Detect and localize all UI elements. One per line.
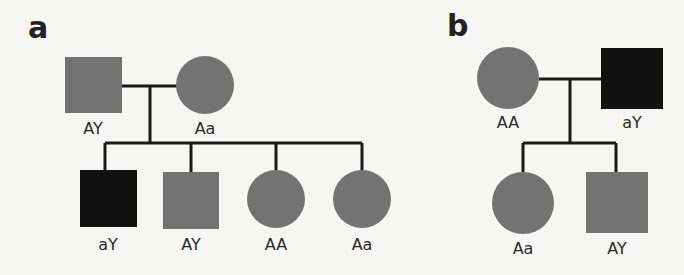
genotype-label: Aa — [195, 119, 216, 138]
genotype-label: AY — [181, 235, 201, 254]
panel-b: b AA aY Aa AY — [447, 8, 663, 258]
genotype-label: AY — [607, 239, 627, 258]
genotype-label: AY — [83, 119, 103, 138]
male-unaffected-symbol — [65, 57, 122, 113]
genotype-label: AA — [265, 235, 287, 254]
genotype-label: Aa — [352, 235, 373, 254]
male-affected-symbol — [80, 170, 137, 227]
female-unaffected-symbol — [477, 47, 539, 109]
male-affected-symbol — [601, 48, 663, 109]
male-unaffected-symbol — [163, 172, 219, 229]
pedigree-figure: a AY Aa aY AY AA Aa b AA aY — [0, 0, 684, 275]
female-unaffected-symbol — [176, 56, 234, 114]
panel-b-label: b — [447, 8, 468, 43]
female-unaffected-symbol — [492, 172, 554, 234]
panel-a-label: a — [28, 10, 48, 45]
panel-a: a AY Aa aY AY AA Aa — [28, 10, 391, 254]
male-unaffected-symbol — [586, 172, 648, 233]
genotype-label: aY — [622, 113, 642, 132]
genotype-label: aY — [98, 235, 118, 254]
genotype-label: AA — [497, 113, 519, 132]
genotype-label: Aa — [513, 239, 534, 258]
female-unaffected-symbol — [247, 170, 305, 228]
female-unaffected-symbol — [333, 170, 391, 228]
